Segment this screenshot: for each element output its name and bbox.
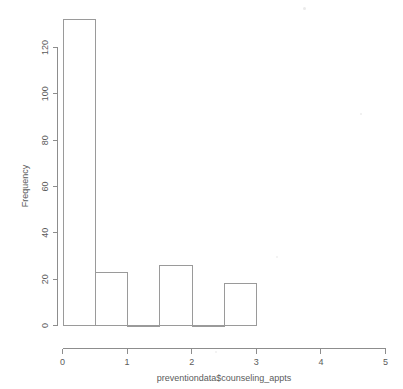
histogram-bars — [63, 20, 257, 326]
histogram-bar — [225, 284, 257, 326]
y-axis-title: Frequency — [20, 164, 30, 207]
x-axis-ticks — [63, 349, 386, 354]
y-tick-label-40: 40 — [40, 228, 50, 238]
y-tick-label-0: 0 — [40, 323, 50, 328]
y-axis-tick-labels: 0 20 40 60 80 100 120 — [40, 40, 50, 328]
x-tick-label-0: 0 — [60, 357, 65, 367]
x-axis-tick-labels: 0 1 2 3 4 5 — [60, 357, 388, 367]
scan-speck — [276, 256, 278, 258]
scan-speck — [215, 351, 217, 353]
histogram-bar — [192, 326, 224, 327]
histogram-bar — [95, 272, 127, 325]
x-tick-label-4: 4 — [318, 357, 323, 367]
scan-speck — [303, 7, 306, 10]
scan-speck — [360, 113, 362, 115]
y-axis-ticks — [53, 48, 58, 326]
y-tick-label-120: 120 — [40, 40, 50, 55]
y-tick-label-80: 80 — [40, 135, 50, 145]
x-tick-label-3: 3 — [254, 357, 259, 367]
histogram-plot: 0 20 40 60 80 100 120 Frequency 0 1 2 3 — [0, 0, 403, 389]
x-axis-title: preventiondata$counseling_appts — [157, 373, 292, 383]
x-tick-label-5: 5 — [383, 357, 388, 367]
x-tick-label-2: 2 — [189, 357, 194, 367]
y-tick-label-100: 100 — [40, 86, 50, 101]
y-tick-label-20: 20 — [40, 274, 50, 284]
histogram-bar — [160, 265, 192, 325]
histogram-bar — [128, 326, 160, 327]
histogram-bar — [63, 20, 95, 326]
x-tick-label-1: 1 — [125, 357, 130, 367]
histogram-figure: 0 20 40 60 80 100 120 Frequency 0 1 2 3 — [0, 0, 403, 389]
y-tick-label-60: 60 — [40, 181, 50, 191]
